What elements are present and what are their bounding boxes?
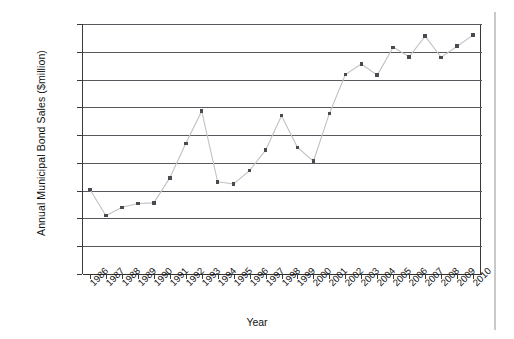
x-axis-title: Year bbox=[0, 316, 514, 328]
data-marker bbox=[264, 148, 268, 152]
gridline-250 bbox=[83, 135, 482, 136]
gridline-100 bbox=[83, 218, 482, 219]
y-tick-mark bbox=[77, 274, 82, 275]
y-tick-mark bbox=[77, 135, 82, 136]
data-marker bbox=[200, 109, 204, 113]
data-marker bbox=[152, 201, 156, 205]
gridline-350 bbox=[83, 80, 482, 81]
y-tick-mark bbox=[77, 24, 82, 25]
plot-area bbox=[82, 24, 481, 274]
y-tick-mark bbox=[77, 107, 82, 108]
data-marker bbox=[168, 176, 172, 180]
y-tick-mark bbox=[77, 163, 82, 164]
y-tick-mark bbox=[77, 191, 82, 192]
data-marker bbox=[328, 112, 332, 116]
data-marker bbox=[312, 159, 316, 163]
gridline-400 bbox=[83, 52, 482, 53]
page-edge-line bbox=[494, 12, 496, 330]
data-marker bbox=[232, 182, 236, 186]
data-marker bbox=[136, 202, 140, 206]
data-marker bbox=[375, 73, 379, 77]
data-marker bbox=[344, 73, 348, 77]
data-marker bbox=[184, 142, 188, 146]
y-tick-mark bbox=[77, 52, 82, 53]
data-marker bbox=[248, 169, 252, 173]
data-marker bbox=[471, 33, 475, 37]
data-marker bbox=[120, 206, 124, 210]
data-marker bbox=[280, 114, 284, 118]
data-marker bbox=[423, 34, 427, 38]
data-marker bbox=[407, 55, 411, 59]
gridline-200 bbox=[83, 163, 482, 164]
data-marker bbox=[360, 62, 364, 66]
y-axis-title: Annual Municipal Bond Sales ($million) bbox=[35, 18, 47, 268]
data-marker bbox=[391, 46, 395, 50]
gridline-450 bbox=[83, 24, 482, 25]
y-tick-mark bbox=[77, 218, 82, 219]
data-marker bbox=[439, 56, 443, 60]
y-tick-mark bbox=[77, 246, 82, 247]
gridline-50 bbox=[83, 246, 482, 247]
data-marker bbox=[296, 146, 300, 150]
municipal-bond-sales-chart: Annual Municipal Bond Sales ($million) $… bbox=[0, 0, 514, 339]
y-tick-mark bbox=[77, 80, 82, 81]
data-marker bbox=[216, 180, 220, 184]
gridline-150 bbox=[83, 191, 482, 192]
data-marker bbox=[88, 188, 92, 192]
data-marker bbox=[104, 214, 108, 218]
gridline-300 bbox=[83, 107, 482, 108]
data-marker bbox=[455, 44, 459, 48]
